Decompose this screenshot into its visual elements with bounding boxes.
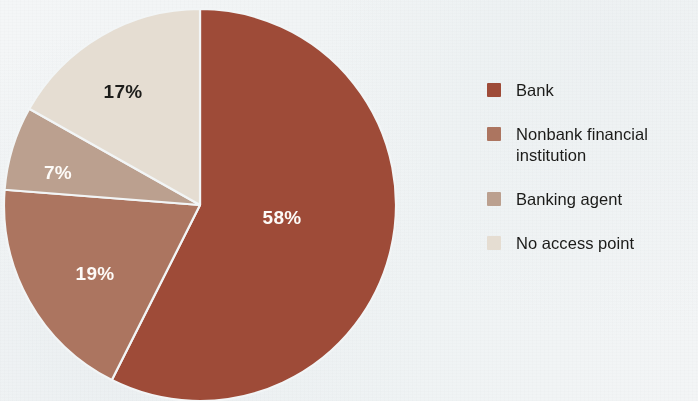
pie-slices-group: [4, 9, 396, 401]
chart-legend: Bank Nonbank financial institution Banki…: [487, 80, 692, 254]
pie-chart-plot-area: 58%19%7%17%: [0, 0, 440, 401]
legend-swatch-bank: [487, 83, 501, 97]
legend-item-no-access-point[interactable]: No access point: [487, 233, 692, 254]
pie-slice-data-label: 19%: [76, 263, 115, 284]
legend-swatch-no-access-point: [487, 236, 501, 250]
pie-slice-data-label: 17%: [104, 81, 143, 102]
legend-swatch-nonbank-financial-institution: [487, 127, 501, 141]
pie-chart-svg: 58%19%7%17%: [0, 0, 440, 401]
legend-label-nonbank-financial-institution: Nonbank financial institution: [516, 124, 648, 166]
legend-swatch-banking-agent: [487, 192, 501, 206]
pie-chart-figure: 58%19%7%17% Bank Nonbank financial insti…: [0, 0, 698, 401]
pie-slice-data-label: 7%: [44, 162, 72, 183]
legend-item-bank[interactable]: Bank: [487, 80, 692, 101]
pie-slice-data-label: 58%: [263, 207, 302, 228]
legend-label-bank: Bank: [516, 80, 554, 101]
legend-item-banking-agent[interactable]: Banking agent: [487, 189, 692, 210]
legend-label-no-access-point: No access point: [516, 233, 634, 254]
legend-item-nonbank-financial-institution[interactable]: Nonbank financial institution: [487, 124, 692, 166]
legend-label-banking-agent: Banking agent: [516, 189, 622, 210]
